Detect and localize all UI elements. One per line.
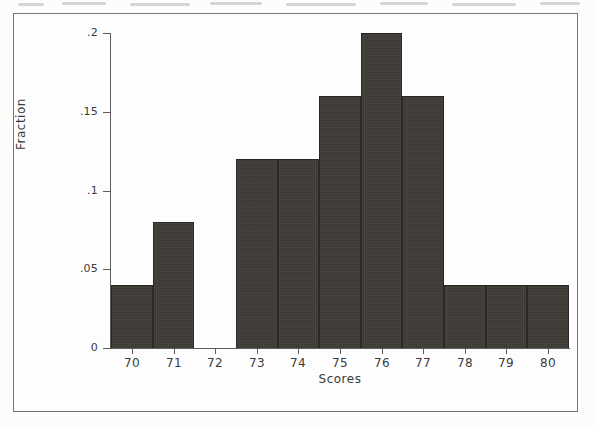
scan-smudge-5 [286,3,356,6]
scan-smudge-7 [452,3,516,6]
scan-smudge-4 [210,2,262,5]
scan-smudge-3 [130,3,190,6]
scan-smudge-1 [18,3,44,6]
scanned-page: 0.05.1.15.2 7071727374757677787980 Fract… [0,0,596,427]
scan-smudge-2 [62,2,106,5]
scan-smudge-8 [540,2,580,5]
figure-frame [13,13,578,412]
scan-smudge-6 [380,2,428,5]
